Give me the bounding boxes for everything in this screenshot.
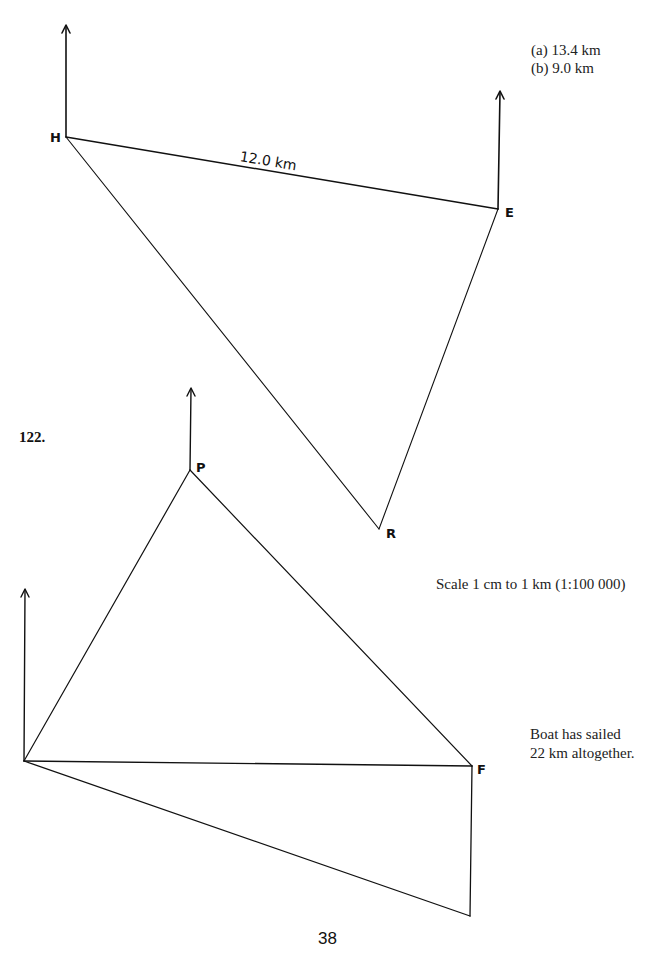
question-number: 122. — [19, 429, 45, 446]
north-arrow-P — [190, 389, 191, 470]
point-label-F: F — [477, 762, 486, 777]
line-start-end — [24, 761, 470, 916]
point-label-H: H — [50, 130, 61, 145]
north-arrow-start — [24, 590, 25, 761]
point-label-R: R — [386, 526, 396, 541]
point-label-P: P — [196, 460, 206, 475]
line-start-F — [24, 761, 472, 766]
note-line-1: Boat has sailed — [530, 725, 621, 743]
diagram-1 — [62, 25, 504, 529]
note-line-2: 22 km altogether. — [530, 744, 635, 762]
line-F-end — [470, 766, 472, 916]
line-ER — [379, 209, 498, 529]
scale-text: Scale 1 cm to 1 km (1:100 000) — [436, 575, 626, 593]
page-number: 38 — [318, 929, 337, 949]
answer-b: (b) 9.0 km — [531, 59, 594, 77]
diagram-2 — [21, 388, 472, 916]
north-arrow-E — [498, 92, 500, 209]
line-start-P — [24, 470, 190, 761]
point-label-E: E — [505, 205, 514, 220]
line-HR — [66, 137, 379, 529]
line-P-F — [190, 470, 472, 766]
geometry-diagram — [0, 0, 658, 955]
answer-a: (a) 13.4 km — [531, 41, 601, 59]
line-HE — [66, 137, 498, 209]
